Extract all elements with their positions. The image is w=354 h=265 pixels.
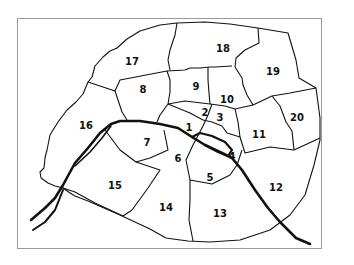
arrondissement-label-16: 16	[79, 120, 93, 131]
arrondissement-label-3: 3	[217, 112, 224, 123]
river-seine-channel	[75, 126, 111, 166]
arrondissement-label-14: 14	[159, 202, 173, 213]
arrondissement-label-5: 5	[207, 172, 214, 183]
arrondissement-label-17: 17	[125, 56, 139, 67]
border-17-18	[168, 23, 177, 70]
arrondissement-label-9: 9	[193, 81, 200, 92]
arrondissement-label-1: 1	[186, 122, 193, 133]
arrondissement-label-12: 12	[269, 182, 283, 193]
border-10-3	[225, 105, 253, 109]
border-9-2	[168, 101, 225, 106]
border-8-9	[167, 71, 170, 104]
border-3-11	[235, 109, 240, 137]
border-8-1	[157, 104, 168, 122]
arrondissement-label-8: 8	[140, 84, 147, 95]
arrondissement-label-4: 4	[229, 151, 236, 162]
arrondissement-label-11: 11	[252, 129, 266, 140]
border-11-20	[272, 96, 294, 150]
city-boundary	[40, 22, 320, 242]
border-19-20	[253, 88, 316, 105]
border-5-13	[189, 180, 193, 241]
border-8-16	[115, 91, 127, 120]
arrondissement-label-7: 7	[144, 137, 151, 148]
arrondissement-label-15: 15	[108, 180, 122, 191]
border-7-15	[105, 130, 136, 162]
arrondissement-label-13: 13	[213, 208, 227, 219]
arrondissement-label-6: 6	[175, 153, 182, 164]
border-9-10	[208, 67, 210, 104]
arrondissement-label-20: 20	[290, 112, 304, 123]
border-17-8	[88, 66, 232, 91]
border-2-1	[168, 104, 203, 120]
arrondissement-label-2: 2	[202, 107, 209, 118]
border-18-19	[235, 28, 259, 67]
border-6-7	[136, 130, 168, 162]
arrondissement-map	[0, 0, 354, 265]
border-15-14	[123, 162, 160, 216]
arrondissement-label-19: 19	[266, 66, 280, 77]
river-seine-branch	[33, 190, 63, 230]
arrondissement-label-10: 10	[220, 94, 234, 105]
border-15-south	[63, 188, 123, 216]
border-19-10	[235, 67, 253, 105]
arrondissement-label-18: 18	[216, 43, 230, 54]
